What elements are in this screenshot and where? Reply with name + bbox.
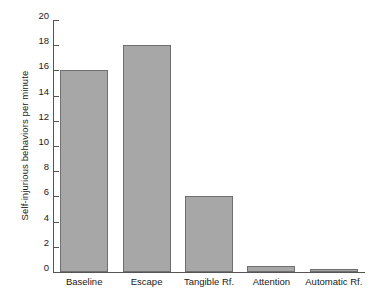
bar	[247, 266, 295, 272]
bar	[123, 45, 171, 272]
y-tick-label: 2	[44, 242, 49, 243]
x-tick-label: Attention	[240, 276, 302, 287]
bar-chart: Self-injurious behaviors per minute 0246…	[0, 0, 371, 298]
x-tick-label: Automatic Rf.	[303, 276, 365, 287]
x-axis-line	[53, 272, 365, 273]
y-tick-mark	[54, 121, 59, 122]
y-tick-mark	[54, 196, 59, 197]
y-tick-mark	[54, 222, 59, 223]
y-tick-mark	[54, 171, 59, 172]
y-tick-label: 8	[44, 166, 49, 167]
y-tick-mark	[54, 247, 59, 248]
x-tick-label: Escape	[115, 276, 177, 287]
y-tick-label: 10	[38, 141, 49, 142]
bar	[185, 196, 233, 272]
y-tick-mark	[54, 96, 59, 97]
y-tick-label: 16	[38, 65, 49, 66]
x-tick-label: Baseline	[53, 276, 115, 287]
y-tick-label: 18	[38, 40, 49, 41]
y-tick-mark	[54, 146, 59, 147]
y-tick-label: 14	[38, 91, 49, 92]
y-tick-label: 20	[38, 15, 49, 16]
y-tick-mark	[54, 272, 59, 273]
y-tick-mark	[54, 70, 59, 71]
y-tick-label: 0	[44, 267, 49, 268]
y-tick-label: 4	[44, 217, 49, 218]
y-tick-mark	[54, 45, 59, 46]
bar	[60, 70, 108, 272]
y-tick-mark	[54, 20, 59, 21]
x-tick-label: Tangible Rf.	[178, 276, 240, 287]
y-axis-title: Self-injurious behaviors per minute	[19, 21, 30, 271]
plot-area: 02468101214161820 BaselineEscapeTangible…	[53, 20, 365, 273]
y-tick-label: 6	[44, 191, 49, 192]
y-tick-label: 12	[38, 116, 49, 117]
bar	[310, 269, 358, 272]
